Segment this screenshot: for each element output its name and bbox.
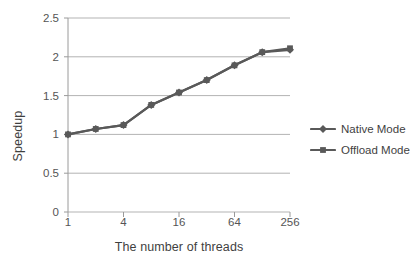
data-point-marker [320, 147, 326, 153]
x-axis-tick-label: 4 [120, 216, 126, 228]
chart-legend: Native ModeOffload Mode [310, 118, 410, 160]
x-axis-tick-label: 64 [228, 216, 241, 228]
x-axis-title: The number of threads [68, 240, 290, 254]
legend-item: Offload Mode [310, 139, 410, 160]
legend-square-marker-icon [310, 143, 336, 157]
legend-item-label: Offload Mode [341, 144, 410, 156]
legend-diamond-marker-icon [310, 122, 336, 136]
legend-item: Native Mode [310, 118, 410, 139]
chart-figure: Speedup 00.511.522.5 141664256 The numbe… [0, 0, 420, 272]
x-axis-tick-label: 1 [65, 216, 71, 228]
data-point-marker [319, 125, 327, 133]
x-axis-tick-label: 16 [173, 216, 186, 228]
legend-item-label: Native Mode [341, 123, 406, 135]
x-axis-tick-label: 256 [280, 216, 299, 228]
